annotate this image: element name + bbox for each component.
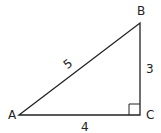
vertex-label-a: A [8,108,17,122]
side-label-ab: 5 [61,56,76,72]
side-label-bc: 3 [146,62,154,76]
vertex-label-c: C [146,108,154,122]
side-label-ac: 4 [81,120,89,133]
right-triangle-diagram: A B C 5 3 4 [0,0,161,133]
right-angle-marker [129,104,140,115]
vertex-label-b: B [137,4,145,18]
triangle-abc [19,23,140,115]
